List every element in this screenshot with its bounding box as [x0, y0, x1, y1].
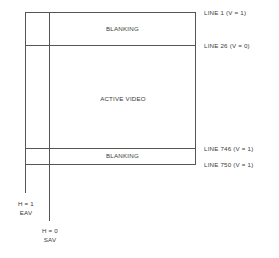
sav-line: [49, 12, 50, 221]
sav-marker: H = 0 SAV: [36, 227, 64, 245]
bottom-blanking-divider: [25, 148, 196, 149]
line-746-marker: LINE 746 (V = 1): [204, 146, 253, 152]
top-blanking-divider: [25, 45, 196, 46]
sav-h-value: H = 0: [36, 227, 64, 236]
eav-code: EAV: [12, 209, 40, 218]
line-26-marker: LINE 26 (V = 0): [204, 43, 250, 49]
frame-top-edge: [25, 12, 196, 13]
video-frame-timing-diagram: BLANKING ACTIVE VIDEO BLANKING LINE 1 (V…: [0, 0, 279, 258]
bottom-blanking-label: BLANKING: [100, 153, 145, 159]
eav-marker: H = 1 EAV: [12, 200, 40, 218]
top-blanking-label: BLANKING: [100, 26, 145, 32]
frame-left-edge-eav-line: [25, 12, 26, 193]
line-1-marker: LINE 1 (V = 1): [204, 10, 246, 16]
line-750-marker: LINE 750 (V = 1): [204, 162, 253, 168]
eav-h-value: H = 1: [12, 200, 40, 209]
sav-code: SAV: [36, 236, 64, 245]
active-video-label: ACTIVE VIDEO: [88, 96, 158, 102]
frame-bottom-edge: [25, 164, 196, 165]
frame-right-edge: [195, 12, 196, 165]
